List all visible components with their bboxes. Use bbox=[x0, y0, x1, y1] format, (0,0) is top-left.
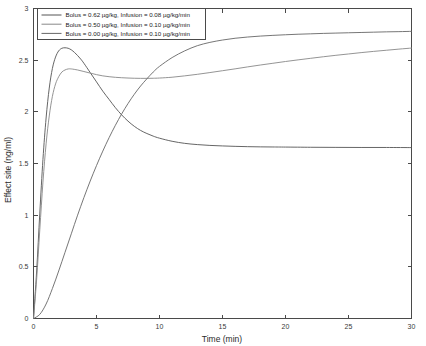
y-tick-label: 0 bbox=[25, 315, 29, 322]
y-tick-label: 1 bbox=[25, 212, 29, 219]
axis-tick-labels: 05101520253000.511.522.53 bbox=[19, 5, 416, 329]
legend-label-1: Bolus = 0.50 µg/kg, Infusion = 0.10 µg/k… bbox=[66, 21, 191, 28]
series-line-1 bbox=[34, 48, 412, 318]
x-tick-label: 5 bbox=[95, 323, 99, 330]
y-tick-label: 1.5 bbox=[19, 160, 29, 167]
y-tick-label: 0.5 bbox=[19, 263, 29, 270]
x-tick-label: 10 bbox=[156, 323, 164, 330]
y-tick-label: 2 bbox=[25, 108, 29, 115]
legend-label-0: Bolus = 0.62 µg/kg, Infusion = 0.08 µg/k… bbox=[66, 11, 191, 18]
plot-border bbox=[34, 9, 412, 319]
series-line-0 bbox=[34, 48, 412, 319]
x-axis-title: Time (min) bbox=[202, 334, 242, 344]
axis-ticks bbox=[34, 9, 412, 319]
x-tick-label: 25 bbox=[345, 323, 353, 330]
x-tick-label: 15 bbox=[219, 323, 227, 330]
effect-site-line-chart: 05101520253000.511.522.53 Bolus = 0.62 µ… bbox=[0, 0, 426, 346]
y-tick-label: 2.5 bbox=[19, 57, 29, 64]
chart-figure: 05101520253000.511.522.53 Bolus = 0.62 µ… bbox=[0, 0, 426, 346]
chart-legend: Bolus = 0.62 µg/kg, Infusion = 0.08 µg/k… bbox=[38, 9, 206, 40]
x-tick-label: 20 bbox=[282, 323, 290, 330]
series-line-2 bbox=[34, 31, 412, 318]
data-series bbox=[34, 31, 412, 318]
x-tick-label: 30 bbox=[408, 323, 416, 330]
x-tick-label: 0 bbox=[32, 323, 36, 330]
y-axis-title: Effect site (ng/ml) bbox=[3, 137, 13, 203]
y-tick-label: 3 bbox=[25, 5, 29, 12]
plot-frame bbox=[34, 9, 412, 319]
legend-label-2: Bolus = 0.00 µg/kg, Infusion = 0.10 µg/k… bbox=[66, 30, 191, 37]
